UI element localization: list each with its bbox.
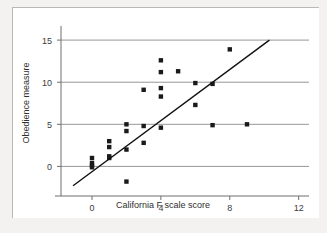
- data-point-12: [141, 88, 145, 92]
- data-point-11: [124, 179, 128, 183]
- data-point-25: [228, 47, 232, 51]
- data-point-4: [107, 139, 111, 143]
- data-point-9: [124, 129, 128, 133]
- data-point-20: [176, 69, 180, 73]
- y-tick-label-5: 5: [47, 120, 52, 130]
- y-axis-title: Obedience measure: [21, 62, 31, 143]
- data-point-18: [159, 94, 163, 98]
- scatter-chart: 04812 051015 California F scale score Ob…: [13, 8, 319, 218]
- data-point-17: [159, 86, 163, 90]
- data-point-24: [210, 123, 214, 127]
- y-tick-label-15: 15: [42, 36, 52, 46]
- chart-plot-card: 04812 051015 California F scale score Ob…: [12, 7, 319, 218]
- x-tick-label-8: 8: [227, 203, 232, 213]
- data-points-group: [90, 47, 249, 184]
- regression-line: [73, 40, 269, 186]
- data-point-21: [193, 81, 197, 85]
- data-point-8: [124, 122, 128, 126]
- data-point-13: [141, 124, 145, 128]
- data-point-0: [90, 156, 94, 160]
- figure-frame: 04812 051015 California F scale score Ob…: [0, 0, 327, 233]
- y-axis-tick-labels: 051015: [42, 36, 52, 172]
- y-tick-label-0: 0: [47, 162, 52, 172]
- data-point-15: [159, 58, 163, 62]
- data-point-3: [90, 165, 94, 169]
- data-point-5: [107, 145, 111, 149]
- data-point-22: [193, 103, 197, 107]
- data-point-19: [159, 125, 163, 129]
- data-point-26: [245, 122, 249, 126]
- x-tick-label-12: 12: [294, 203, 304, 213]
- regression-line-group: [73, 40, 269, 186]
- data-point-14: [141, 141, 145, 145]
- tick-marks-group: [57, 40, 299, 200]
- x-axis-title: California F scale score: [116, 200, 210, 210]
- data-point-16: [159, 70, 163, 74]
- x-tick-label-0: 0: [89, 203, 94, 213]
- y-tick-label-10: 10: [42, 78, 52, 88]
